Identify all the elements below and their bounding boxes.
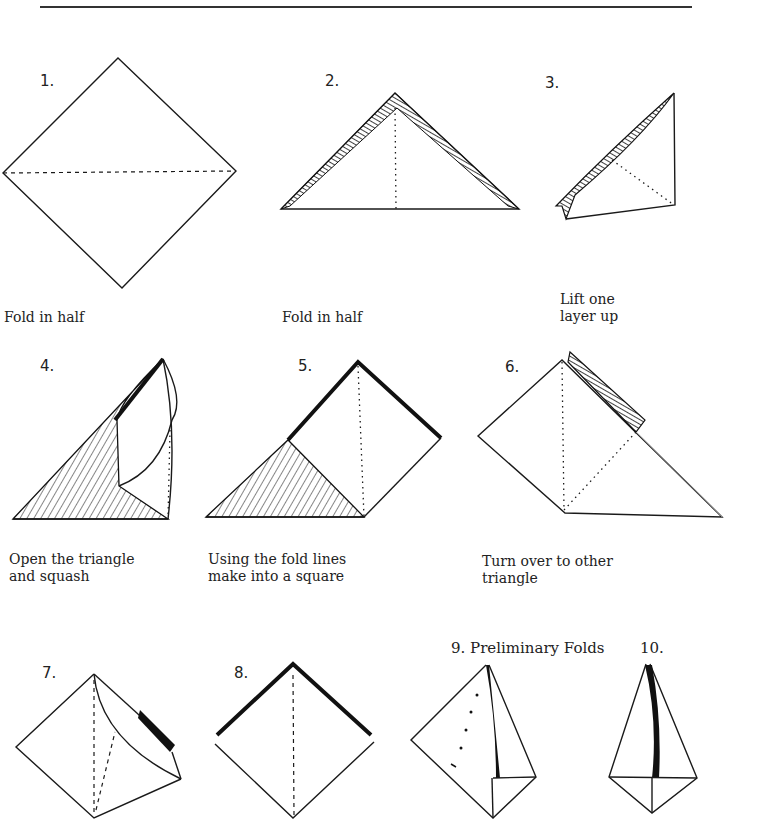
step-8-number: 8. <box>234 664 248 682</box>
step-7-diagram <box>16 674 181 818</box>
step-7-number: 7. <box>42 664 56 682</box>
step-9-number: 9. Preliminary Folds <box>451 640 605 657</box>
step-5-number: 5. <box>298 357 312 375</box>
step-2-diagram <box>281 93 519 209</box>
step-4-number: 4. <box>40 357 54 375</box>
step-3-diagram <box>556 93 675 219</box>
step-8-diagram <box>215 664 374 818</box>
step-10-number: 10. <box>640 640 664 657</box>
step-9-diagram <box>411 665 536 818</box>
step-1-number: 1. <box>40 72 54 90</box>
step-1-caption: Fold in half <box>4 309 84 326</box>
step-1-diagram <box>3 58 236 288</box>
step-10-diagram <box>609 664 697 813</box>
step-6-number: 6. <box>505 358 519 376</box>
step-6-diagram <box>478 352 722 517</box>
step-3-caption: Lift one layer up <box>560 291 618 325</box>
step-2-number: 2. <box>325 72 339 90</box>
step-4-diagram <box>13 359 177 519</box>
step-5-diagram <box>206 362 441 517</box>
step-4-caption: Open the triangle and squash <box>9 551 134 585</box>
origami-diagrams <box>0 0 765 820</box>
step-5-caption: Using the fold lines make into a square <box>208 551 346 585</box>
step-6-caption: Turn over to other triangle <box>482 553 613 587</box>
step-2-caption: Fold in half <box>282 309 362 326</box>
step-3-number: 3. <box>545 74 559 92</box>
